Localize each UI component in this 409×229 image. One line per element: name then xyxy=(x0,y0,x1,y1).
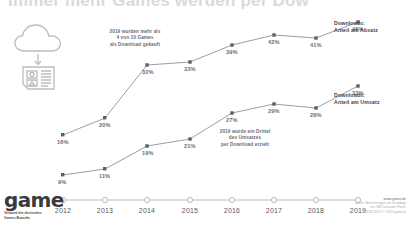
axis-tick xyxy=(229,197,234,202)
axis-tick xyxy=(102,197,107,202)
axis-tick xyxy=(187,197,192,202)
x-axis-label: 2016 xyxy=(215,207,249,214)
x-axis-label: 2018 xyxy=(299,207,333,214)
x-axis-label: 2014 xyxy=(130,207,164,214)
infographic-root: Immer mehr Games werden per Download gek… xyxy=(0,0,409,229)
axis-tick xyxy=(313,197,318,202)
logo-wordmark: game xyxy=(4,190,74,210)
axis-tick xyxy=(144,197,149,202)
x-axis-label: 2013 xyxy=(88,207,122,214)
x-axis-label: 2015 xyxy=(173,207,207,214)
game-logo: game Verband der deutschen Games-Branche xyxy=(4,190,74,226)
logo-subtitle-line: Games-Branche xyxy=(4,216,74,221)
source-note: www.game.de Quelle: Berechnungen auf Gru… xyxy=(350,197,406,214)
source-line: 2018-2019 / © 2020 game.de xyxy=(350,210,406,214)
x-axis-label: 2017 xyxy=(257,207,291,214)
logo-subtitle: Verband der deutschen Games-Branche xyxy=(4,211,74,220)
axis-tick xyxy=(271,197,276,202)
